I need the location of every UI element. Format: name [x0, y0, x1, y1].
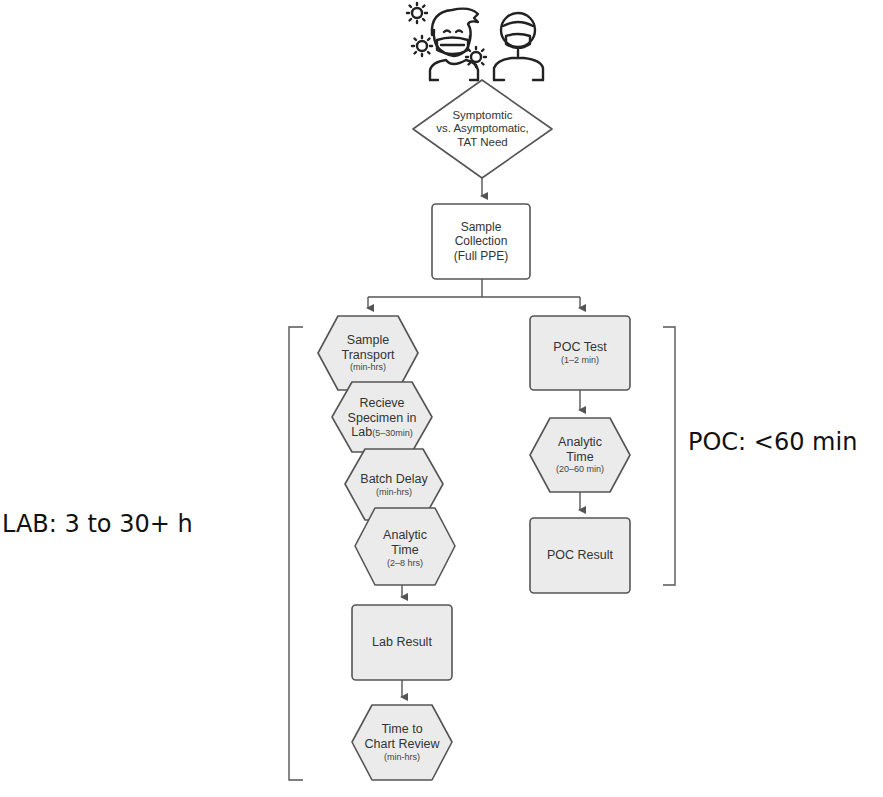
masked-people-with-virus-icon [407, 3, 543, 80]
step-poc-test: POC Test (1–2 min) [530, 316, 630, 390]
virus-icon-2 [412, 36, 432, 56]
poc-duration-label: POC: <60 min [688, 428, 857, 456]
step-lab-result: Lab Result [352, 605, 452, 680]
lab-bracket [289, 327, 303, 780]
sample-collection-text: Sample Collection (Full PPE) [432, 204, 530, 279]
step-batch-delay: Batch Delay (min-hrs) [345, 452, 443, 518]
step-recieve-specimen: Recieve Specimen in Lab(5–30min) [332, 384, 432, 452]
step-poc-result: POC Result [530, 518, 630, 593]
virus-icon-1 [407, 3, 427, 23]
step-analytic-time-poc: Analytic Time (20–60 min) [530, 418, 630, 492]
step-chart-review: Time to Chart Review (min-hrs) [352, 705, 452, 780]
lab-duration-label: LAB: 3 to 30+ h [2, 510, 193, 538]
step-analytic-time-lab: Analytic Time (2–8 hrs) [355, 512, 455, 585]
poc-bracket [663, 327, 675, 585]
decision-text: Symptomtic vs. Asymptomatic, TAT Need [413, 100, 552, 158]
step-sample-transport: Sample Transport (min-hrs) [318, 316, 418, 390]
